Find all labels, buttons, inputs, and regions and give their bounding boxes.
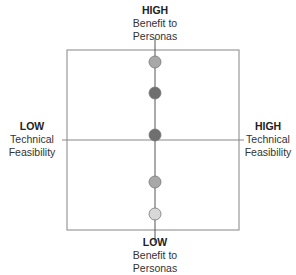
top-line1: Benefit to bbox=[118, 17, 192, 30]
bottom-line2: Personas bbox=[118, 262, 192, 275]
right-line1: Technical bbox=[240, 133, 296, 146]
right-label: HIGH Technical Feasibility bbox=[240, 120, 296, 159]
right-line2: Feasibility bbox=[240, 146, 296, 159]
data-point bbox=[149, 208, 161, 220]
bottom-label: LOW Benefit to Personas bbox=[118, 236, 192, 275]
bottom-level: LOW bbox=[118, 236, 192, 249]
data-point bbox=[149, 56, 161, 68]
left-level: LOW bbox=[0, 120, 64, 133]
data-point bbox=[149, 87, 161, 99]
data-point bbox=[149, 129, 161, 141]
left-line2: Feasibility bbox=[0, 146, 64, 159]
top-level: HIGH bbox=[118, 4, 192, 17]
left-line1: Technical bbox=[0, 133, 64, 146]
left-label: LOW Technical Feasibility bbox=[0, 120, 64, 159]
top-line2: Personas bbox=[118, 30, 192, 43]
top-label: HIGH Benefit to Personas bbox=[118, 4, 192, 43]
right-level: HIGH bbox=[240, 120, 296, 133]
data-point bbox=[149, 176, 161, 188]
bottom-line1: Benefit to bbox=[118, 249, 192, 262]
